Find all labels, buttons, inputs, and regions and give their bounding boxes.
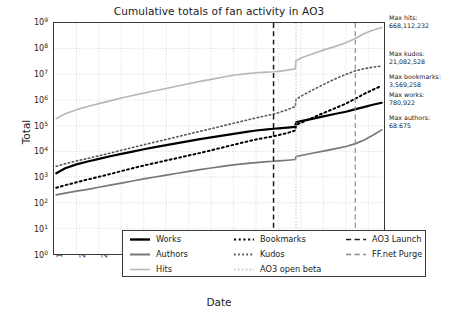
legend-entry-works[interactable]: Works	[129, 232, 233, 247]
legend-label: Kudos	[260, 249, 285, 259]
annotation-label: Max works:	[389, 91, 425, 99]
legend-label: AO3 open beta	[260, 264, 321, 274]
legend-label: AO3 Launch	[372, 234, 421, 244]
event-lines	[54, 23, 384, 254]
legend-entry-hits[interactable]: Hits	[129, 262, 233, 277]
y-axis-tick-labels: 100101102103104105106107108109	[0, 22, 53, 255]
annotation-value: 780,922	[389, 99, 425, 107]
legend-swatch-icon	[345, 235, 367, 244]
legend-entry-ao3-launch[interactable]: AO3 Launch	[345, 232, 433, 247]
legend-swatch-icon	[233, 265, 255, 274]
legend-entry-authors[interactable]: Authors	[129, 247, 233, 262]
annotation-value: 68.675	[389, 122, 430, 130]
legend-entry-ff-net-purge[interactable]: FF.net Purge	[345, 247, 433, 262]
y-tick-label: 104	[34, 146, 48, 157]
chart-figure: Cumulative totals of fan activity in AO3…	[0, 0, 474, 316]
legend-swatch-icon	[233, 250, 255, 259]
legend-label: Works	[156, 234, 181, 244]
annotation-max-authors: Max authors:68.675	[389, 114, 430, 130]
legend-entry-ao3-open-beta[interactable]: AO3 open beta	[233, 262, 345, 277]
y-tick-label: 107	[34, 68, 48, 79]
legend-label: Hits	[156, 264, 172, 274]
legend-label: FF.net Purge	[372, 249, 422, 259]
annotation-label: Max kudos:	[389, 50, 425, 58]
y-tick-label: 106	[34, 94, 48, 105]
y-tick-label: 105	[34, 120, 48, 131]
y-tick-label: 103	[34, 172, 48, 183]
y-tick-label: 109	[34, 17, 48, 28]
annotation-max-hits: Max hits:668,112,232	[389, 14, 429, 30]
annotation-label: Max authors:	[389, 114, 430, 122]
annotation-label: Max bookmarks:	[389, 73, 441, 81]
x-axis-label: Date	[53, 296, 385, 308]
y-tick-label: 102	[34, 198, 48, 209]
annotation-value: 3,569,258	[389, 81, 441, 89]
annotation-max-works: Max works:780,922	[389, 91, 425, 107]
y-tick-label: 101	[34, 224, 48, 235]
plot-area: WorksBookmarksAO3 LaunchAuthorsKudosFF.n…	[53, 22, 385, 255]
legend-swatch-icon	[129, 250, 151, 259]
legend-entry-bookmarks[interactable]: Bookmarks	[233, 232, 345, 247]
annotation-value: 21,082,528	[389, 58, 425, 66]
y-tick-label: 100	[34, 250, 48, 261]
legend-swatch-icon	[129, 265, 151, 274]
annotation-label: Max hits:	[389, 14, 429, 22]
legend-entry-kudos[interactable]: Kudos	[233, 247, 345, 262]
annotation-max-bookmarks: Max bookmarks:3,569,258	[389, 73, 441, 89]
chart-legend: WorksBookmarksAO3 LaunchAuthorsKudosFF.n…	[122, 230, 426, 277]
y-tick-label: 108	[34, 43, 48, 54]
legend-swatch-icon	[129, 235, 151, 244]
annotation-max-kudos: Max kudos:21,082,528	[389, 50, 425, 66]
chart-title: Cumulative totals of fan activity in AO3	[53, 5, 385, 17]
legend-label: Bookmarks	[260, 234, 306, 244]
legend-swatch-icon	[233, 235, 255, 244]
legend-swatch-icon	[345, 250, 367, 259]
legend-label: Authors	[156, 249, 188, 259]
annotation-value: 668,112,232	[389, 22, 429, 30]
